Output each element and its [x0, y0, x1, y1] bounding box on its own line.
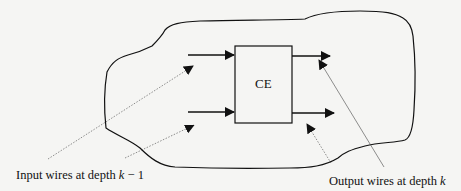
input-pointer-top — [48, 66, 193, 159]
output-label-var: k — [440, 174, 446, 188]
input-label-text: Input wires at depth — [16, 168, 119, 182]
ce-node-label: CE — [255, 76, 272, 92]
output-label-text: Output wires at depth — [329, 174, 440, 188]
input-label-suffix: − 1 — [124, 168, 144, 182]
output-pointer-bottom — [307, 124, 331, 163]
diagram-graphic — [0, 0, 461, 191]
output-wires-label: Output wires at depth k — [329, 174, 446, 189]
diagram-canvas: CE Input wires at depth k − 1 Output wir… — [0, 0, 461, 191]
input-wires-label: Input wires at depth k − 1 — [16, 168, 144, 183]
input-pointer-bottom — [125, 125, 194, 158]
